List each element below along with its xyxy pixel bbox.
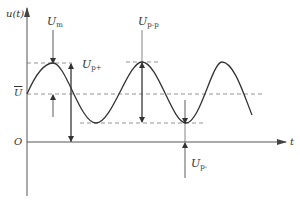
um-base: U [47, 15, 56, 28]
upplus-label: Up+ [82, 59, 102, 72]
waveform-diagram [0, 0, 300, 204]
upminus-sub: p- [200, 163, 207, 171]
upp-label: Up-p [138, 16, 159, 29]
sine-wave [27, 62, 252, 123]
upminus-base: U [191, 157, 200, 170]
x-axis-label: t [290, 137, 294, 147]
upp-base: U [138, 15, 147, 28]
upminus-label: Up- [191, 158, 207, 171]
y-axis-label: u(t) [6, 9, 24, 19]
um-sub: m [56, 21, 63, 29]
upplus-base: U [82, 58, 91, 71]
upplus-sub: p+ [91, 64, 101, 72]
mean-label: U [14, 88, 22, 98]
um-label: Um [47, 16, 63, 29]
upp-sub: p-p [147, 21, 158, 29]
origin-label: O [14, 137, 22, 147]
